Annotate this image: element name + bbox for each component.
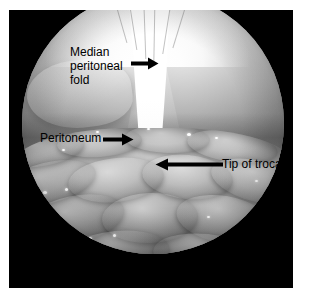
figure-root: Median peritoneal fold Peritoneum Tip of…: [0, 0, 309, 305]
annotation-label-line: Median: [70, 45, 109, 59]
annotation-label-line: peritoneal: [70, 59, 123, 73]
annotation-peritoneum-label: Peritoneum: [40, 131, 101, 145]
annotation-layer: Median peritoneal fold Peritoneum Tip of…: [0, 0, 309, 305]
annotation-label-line: fold: [70, 73, 89, 87]
annotation-tip-of-trocar-label: Tip of trocar: [222, 157, 286, 171]
